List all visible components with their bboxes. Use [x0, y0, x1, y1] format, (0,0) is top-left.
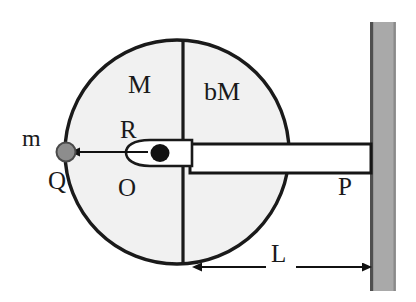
label-right-half-mass: bM — [204, 79, 240, 105]
label-length-l: L — [271, 241, 286, 266]
label-point-mass: m — [22, 126, 41, 150]
point-mass — [57, 143, 76, 162]
label-left-half-mass: M — [128, 72, 151, 98]
rod — [190, 144, 371, 173]
wall-outer-edge — [394, 22, 396, 291]
rod-body — [190, 144, 371, 173]
physics-diagram: M bM R m Q O P L — [0, 0, 416, 302]
wall — [370, 22, 396, 291]
label-center-o: O — [118, 175, 136, 200]
axis-dot — [151, 144, 170, 162]
label-point-p: P — [338, 174, 352, 199]
point-mass-ball — [57, 143, 76, 162]
wall-fill — [370, 22, 396, 291]
label-point-q: Q — [48, 168, 66, 193]
diagram-svg — [0, 0, 416, 302]
label-radius: R — [120, 117, 137, 142]
